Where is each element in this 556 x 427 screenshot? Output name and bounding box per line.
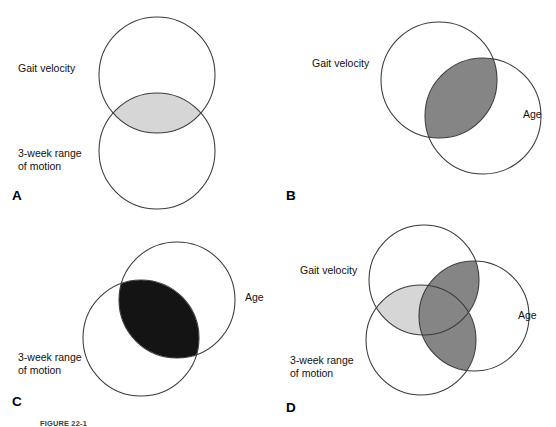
three-week-rom-label-line2: of motion: [18, 160, 61, 172]
three-week-rom-label-line1: 3-week range: [18, 147, 82, 159]
gait-rom-intersection: [99, 93, 215, 209]
panel-d: Gait velocity Age 3-week range of motion…: [278, 213, 556, 427]
three-week-rom-label-line2: of motion: [290, 367, 333, 379]
three-week-rom-label-line1: 3-week range: [290, 354, 354, 366]
age-rom-intersection: [83, 280, 199, 396]
figure-caption: FIGURE 22-1: [40, 419, 87, 427]
panel-c-diagram: Age 3-week range of motion C: [0, 213, 278, 427]
panel-a: Gait velocity 3-week range of motion A: [0, 0, 278, 214]
age-label: Age: [245, 291, 264, 303]
panel-letter-b: B: [286, 188, 296, 203]
three-week-rom-label-line2: of motion: [18, 364, 61, 376]
panel-b-diagram: Gait velocity Age B: [278, 0, 556, 214]
figure-root: Gait velocity 3-week range of motion A G…: [0, 0, 556, 427]
gait-velocity-label: Gait velocity: [300, 264, 358, 276]
panel-letter-d: D: [286, 400, 296, 415]
gait-velocity-label: Gait velocity: [312, 57, 370, 69]
panel-c: Age 3-week range of motion C: [0, 213, 278, 427]
three-week-rom-label-line1: 3-week range: [18, 351, 82, 363]
panel-d-diagram: Gait velocity Age 3-week range of motion…: [278, 213, 556, 427]
panel-a-diagram: Gait velocity 3-week range of motion A: [0, 0, 278, 214]
age-label: Age: [518, 309, 537, 321]
gait-velocity-label: Gait velocity: [18, 62, 76, 74]
panel-letter-a: A: [12, 188, 22, 203]
panel-letter-c: C: [12, 394, 22, 409]
age-label: Age: [523, 108, 542, 120]
panel-b: Gait velocity Age B: [278, 0, 556, 214]
